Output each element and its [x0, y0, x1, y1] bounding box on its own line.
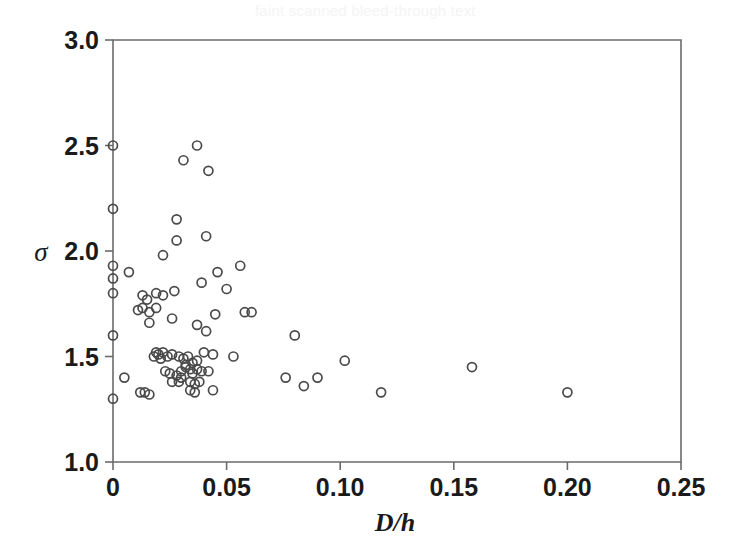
data-point	[467, 363, 476, 372]
data-point	[208, 386, 217, 395]
plot-frame	[113, 40, 681, 462]
data-point	[290, 331, 299, 340]
data-point	[193, 141, 202, 150]
axis-labels: 1.01.52.02.53.000.050.100.150.200.25D/hσ	[34, 26, 705, 537]
data-point	[172, 215, 181, 224]
y-tick-label: 1.0	[64, 448, 99, 476]
data-point	[199, 348, 208, 357]
data-point	[204, 166, 213, 175]
data-point	[340, 356, 349, 365]
data-point	[172, 236, 181, 245]
data-point	[281, 373, 290, 382]
y-tick-label: 2.5	[64, 132, 99, 160]
data-point	[202, 327, 211, 336]
data-point	[179, 156, 188, 165]
y-tick-label: 2.0	[64, 237, 99, 265]
data-point	[168, 314, 177, 323]
x-tick-label: 0.15	[429, 473, 478, 501]
data-point	[313, 373, 322, 382]
data-point	[197, 278, 206, 287]
y-tick-label: 1.5	[64, 343, 99, 371]
data-point	[202, 232, 211, 241]
y-tick-label: 3.0	[64, 26, 99, 54]
data-point	[208, 350, 217, 359]
data-point	[124, 268, 133, 277]
figure-page: faint scanned bleed-through text 1.01.52…	[0, 0, 735, 549]
x-tick-label: 0.05	[202, 473, 251, 501]
data-point	[299, 382, 308, 391]
plot-border	[113, 40, 681, 462]
y-axis-title: σ	[34, 237, 49, 267]
data-point	[377, 388, 386, 397]
data-point	[236, 261, 245, 270]
data-point	[563, 388, 572, 397]
data-point	[193, 320, 202, 329]
x-tick-label: 0.20	[543, 473, 592, 501]
data-point	[213, 268, 222, 277]
x-tick-label: 0.10	[316, 473, 365, 501]
x-tick-label: 0	[106, 473, 120, 501]
x-axis-title: D/h	[374, 508, 415, 537]
data-point	[120, 373, 129, 382]
data-point	[229, 352, 238, 361]
data-point	[145, 308, 154, 317]
data-point	[222, 284, 231, 293]
x-tick-label: 0.25	[657, 473, 706, 501]
data-markers	[109, 141, 572, 403]
data-point	[211, 310, 220, 319]
data-point	[158, 251, 167, 260]
data-point	[145, 318, 154, 327]
data-point	[170, 287, 179, 296]
axis-ticks	[105, 40, 681, 470]
scatter-plot: 1.01.52.02.53.000.050.100.150.200.25D/hσ	[0, 0, 735, 549]
